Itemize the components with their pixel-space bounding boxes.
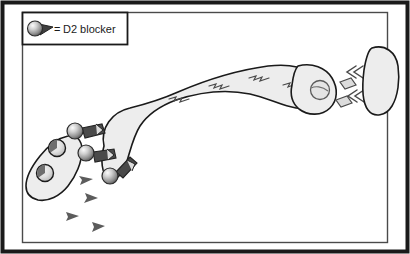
legend-box: = D2 blocker bbox=[23, 13, 128, 45]
dopamine-receptor bbox=[37, 165, 54, 182]
figure-root: = D2 blocker bbox=[0, 0, 410, 254]
synapse-diagram: = D2 blocker bbox=[0, 0, 410, 254]
dopamine-receptor bbox=[49, 140, 66, 157]
adjacent-neuron bbox=[363, 47, 399, 115]
legend-equals-sign: = bbox=[54, 23, 60, 35]
legend-label: D2 blocker bbox=[63, 23, 116, 35]
